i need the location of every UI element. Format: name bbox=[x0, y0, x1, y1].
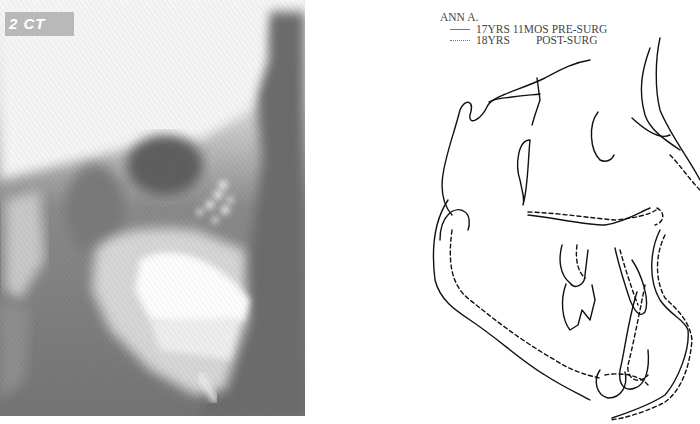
radiograph-corner-label: 2 CT bbox=[5, 12, 74, 36]
legend-title: ANN A. bbox=[440, 12, 607, 23]
solid-line-swatch bbox=[450, 29, 470, 30]
pre-surgical-tracing bbox=[433, 38, 700, 418]
tracing-legend: ANN A. 17YRS 11MOS PRE-SURG 18YRSPOST-SU… bbox=[440, 12, 607, 46]
legend-entry-post-surg: 18YRSPOST-SURG bbox=[440, 35, 607, 46]
cephalometric-tracing bbox=[405, 0, 700, 424]
radiograph-image bbox=[0, 0, 305, 416]
post-surgical-tracing bbox=[450, 155, 700, 420]
legend-stage: POST-SURG bbox=[536, 35, 598, 46]
dotted-line-swatch bbox=[450, 40, 470, 41]
legend-age: 18YRS bbox=[476, 35, 510, 46]
